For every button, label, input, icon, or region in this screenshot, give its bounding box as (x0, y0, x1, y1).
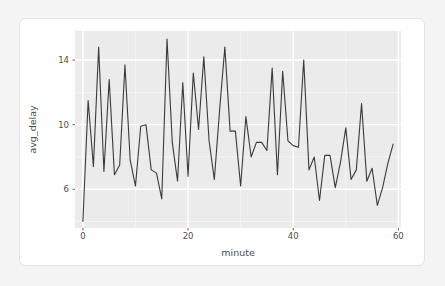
x-tick-label: 20 (183, 231, 194, 241)
y-tick-label: 10 (58, 120, 69, 130)
x-tick-label: 60 (393, 231, 404, 241)
x-tick-label: 40 (288, 231, 299, 241)
y-tick-label: 6 (64, 184, 69, 194)
y-axis-title: avg_delay (27, 105, 38, 154)
ggplot-line-chart: 0204060 61014 minute avg_delay (20, 19, 426, 267)
x-axis-ticks (83, 228, 398, 231)
x-tick-label: 0 (80, 231, 85, 241)
screenshot-root: 0204060 61014 minute avg_delay (0, 0, 445, 286)
y-axis-tick-labels: 61014 (58, 55, 69, 194)
x-axis-tick-labels: 0204060 (80, 231, 404, 241)
x-axis-title: minute (221, 247, 255, 258)
y-axis-ticks (73, 60, 76, 189)
y-tick-label: 14 (58, 55, 69, 65)
chart-card: 0204060 61014 minute avg_delay (19, 18, 425, 266)
plot-container: 0204060 61014 minute avg_delay (20, 19, 426, 267)
